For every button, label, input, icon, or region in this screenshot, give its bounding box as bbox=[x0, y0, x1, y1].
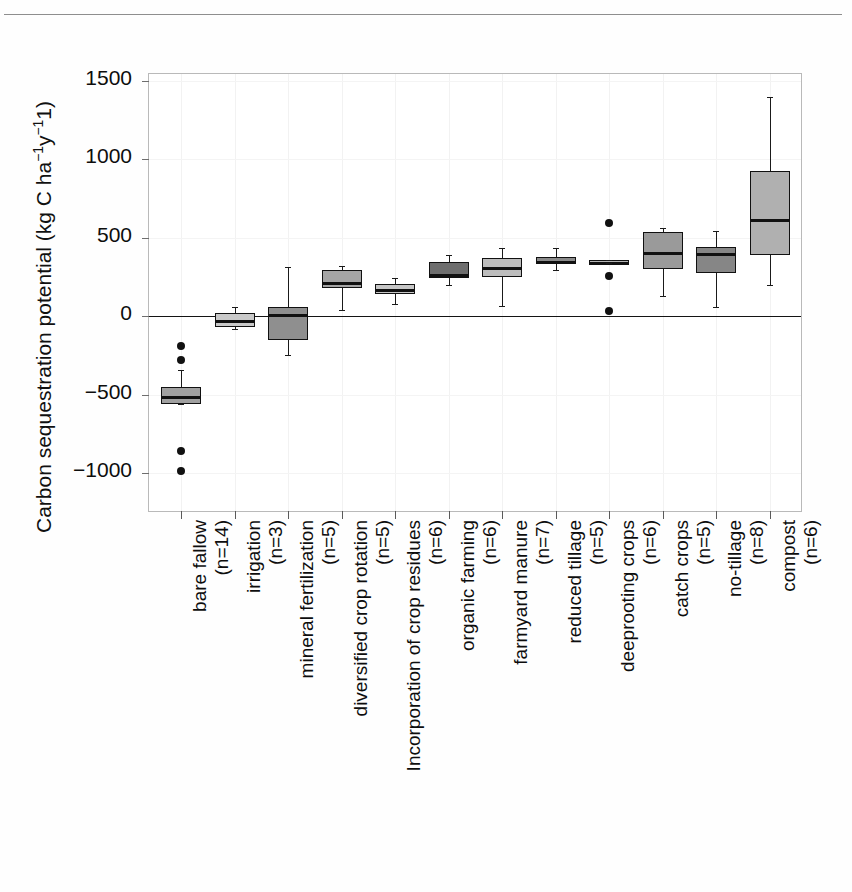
x-axis-label-count: (n=6) bbox=[639, 520, 661, 800]
x-axis-label-name: no-tillage bbox=[724, 520, 745, 597]
whisker-lower bbox=[770, 255, 771, 286]
x-axis-label-bare-fallow: bare fallow(n=14) bbox=[189, 520, 233, 800]
x-axis-tick bbox=[663, 511, 664, 519]
x-axis-label-name: irrigation bbox=[243, 520, 264, 593]
x-axis-tick bbox=[449, 511, 450, 519]
x-axis-tick-labels: bare fallow(n=14)irrigation(n=3)mineral … bbox=[148, 520, 802, 850]
y-axis-tick-label: 0 bbox=[22, 301, 132, 325]
x-axis-tick bbox=[235, 511, 236, 519]
x-axis-label-count: (n=6) bbox=[800, 520, 822, 800]
x-axis-label-name: farmyard manure bbox=[510, 520, 531, 665]
x-axis-label-count: (n=8) bbox=[746, 520, 768, 800]
x-axis-label-name: mineral fertilization bbox=[296, 520, 317, 678]
y-axis-tick-label: −1000 bbox=[22, 458, 132, 482]
y-axis-tick-label: 500 bbox=[22, 223, 132, 247]
x-axis-label-count: (n=3) bbox=[265, 520, 287, 800]
x-axis-label-count: (n=7) bbox=[532, 520, 554, 800]
y-axis-tick bbox=[142, 473, 149, 474]
y-axis-title-sup-2: −1 bbox=[30, 120, 46, 136]
x-axis-label-irrigation: irrigation(n=3) bbox=[243, 520, 287, 800]
x-axis-label-count: (n=6) bbox=[479, 520, 501, 800]
y-axis-tick bbox=[142, 316, 149, 317]
cap-upper bbox=[767, 97, 773, 98]
y-axis-tick-label: 1000 bbox=[22, 144, 132, 168]
x-axis-label-name: deeprooting crops bbox=[617, 520, 638, 672]
x-axis-label-mineral-fertilization: mineral fertilization(n=5) bbox=[296, 520, 340, 800]
page-header-divider bbox=[4, 14, 842, 15]
box-iqr bbox=[750, 171, 790, 255]
boxplot-figure: Carbon sequestration potential (kg C ha−… bbox=[0, 0, 852, 892]
y-axis-tick bbox=[142, 395, 149, 396]
whisker-upper bbox=[770, 97, 771, 171]
x-axis-tick bbox=[556, 511, 557, 519]
x-axis-label-name: reduced tillage bbox=[564, 520, 585, 644]
x-axis-label-count: (n=5) bbox=[586, 520, 608, 800]
x-axis-label-name: compost bbox=[778, 520, 799, 592]
boxplot-compost bbox=[149, 74, 801, 511]
x-axis-label-count: (n=5) bbox=[372, 520, 394, 800]
x-axis-tick bbox=[342, 511, 343, 519]
x-axis-label-name: Incorporation of crop residues bbox=[403, 520, 424, 771]
x-axis-label-name: diversified crop rotation bbox=[350, 520, 371, 716]
page-header-clipped-text bbox=[560, 0, 830, 8]
x-axis-label-catch-crops: catch crops(n=5) bbox=[671, 520, 715, 800]
plot-area bbox=[148, 73, 802, 512]
x-axis-label-count: (n=5) bbox=[318, 520, 340, 800]
x-axis-label-no-tillage: no-tillage(n=8) bbox=[724, 520, 768, 800]
x-axis-label-incorporation-of-crop-residues: Incorporation of crop residues(n=6) bbox=[403, 520, 447, 800]
x-axis-tick bbox=[609, 511, 610, 519]
x-axis-tick bbox=[288, 511, 289, 519]
x-axis-tick bbox=[770, 511, 771, 519]
x-axis-label-name: bare fallow bbox=[189, 520, 210, 612]
y-axis-tick bbox=[142, 238, 149, 239]
x-axis-label-organic-farming: organic farming(n=6) bbox=[457, 520, 501, 800]
y-axis-tick bbox=[142, 159, 149, 160]
x-axis-tick bbox=[181, 511, 182, 519]
y-axis-title-tail: 1) bbox=[32, 101, 55, 120]
x-axis-label-count: (n=5) bbox=[693, 520, 715, 800]
y-axis-tick-label: 1500 bbox=[22, 66, 132, 90]
x-axis-label-count: (n=14) bbox=[211, 520, 233, 800]
x-axis-label-farmyard-manure: farmyard manure(n=7) bbox=[510, 520, 554, 800]
x-axis-label-name: catch crops bbox=[671, 520, 692, 617]
x-axis-label-count: (n=6) bbox=[425, 520, 447, 800]
x-axis-label-diversified-crop-rotation: diversified crop rotation(n=5) bbox=[350, 520, 394, 800]
x-axis-label-compost: compost(n=6) bbox=[778, 520, 822, 800]
x-axis-tick bbox=[395, 511, 396, 519]
y-axis-tick bbox=[142, 81, 149, 82]
x-axis-label-reduced-tillage: reduced tillage(n=5) bbox=[564, 520, 608, 800]
x-axis-label-name: organic farming bbox=[457, 520, 478, 651]
cap-lower bbox=[767, 285, 773, 286]
x-axis-label-deeprooting-crops: deeprooting crops(n=6) bbox=[617, 520, 661, 800]
median-line bbox=[750, 219, 790, 222]
y-axis-tick-label: −500 bbox=[22, 380, 132, 404]
x-axis-tick bbox=[716, 511, 717, 519]
x-axis-tick bbox=[502, 511, 503, 519]
